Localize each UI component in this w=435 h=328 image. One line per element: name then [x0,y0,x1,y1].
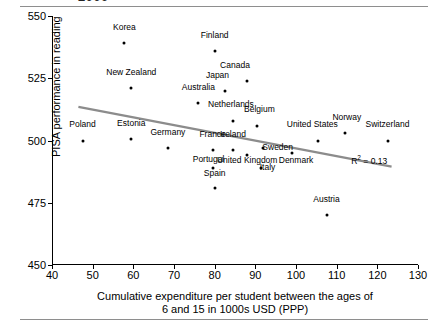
x-tick-label: 100 [287,269,305,281]
data-point-marker[interactable] [197,102,200,105]
y-tick-label: 475 [28,197,46,209]
figure-title-text: 2009 [78,0,109,4]
data-point-marker[interactable] [246,79,249,82]
x-axis-title-line1: Cumulative expenditure per student betwe… [52,290,418,303]
x-tick-label: 70 [168,269,180,281]
data-point-marker[interactable] [386,139,389,142]
data-point-label: Sweden [262,142,293,152]
data-point-marker[interactable] [290,151,293,154]
x-tick-label: 50 [87,269,99,281]
x-tick-label: 130 [409,269,427,281]
data-point-label: Germany [150,127,185,137]
data-point-marker[interactable] [130,138,133,141]
data-point-marker[interactable] [166,146,169,149]
data-point-marker[interactable] [213,49,216,52]
data-point-marker[interactable] [343,132,346,135]
data-point-label: Belgium [244,104,275,114]
data-point-label: United States [287,119,338,129]
data-point-marker[interactable] [256,124,259,127]
data-point-label: Portugal [193,154,225,164]
data-point-label: Estonia [117,118,145,128]
x-axis-title: Cumulative expenditure per student betwe… [52,290,418,316]
trendline-svg [52,16,418,265]
data-point-label: New Zealand [106,67,156,77]
figure-title-clipped: 2009 [0,0,435,5]
y-axis-title: PISA performance in reading [50,16,62,157]
data-point-marker[interactable] [231,119,234,122]
data-point-label: Switzerland [366,119,410,129]
x-tick-label: 110 [328,269,346,281]
r-squared-annotation: R2 = 0.13 [351,154,387,166]
data-point-label: Korea [113,22,136,32]
x-axis-title-line2: 6 and 15 in 1000s USD (PPP) [52,303,418,316]
data-point-marker[interactable] [231,149,234,152]
plot-area: 450475500525550 405060708090100110120130… [52,16,418,265]
data-point-label: Australia [182,82,215,92]
data-point-marker[interactable] [317,139,320,142]
data-point-marker[interactable] [130,87,133,90]
chart-figure: 2009 450475500525550 4050607080901001101… [0,0,435,328]
top-divider-rule [20,6,428,7]
r2-value: = 0.13 [361,156,387,166]
y-tick-label: 450 [28,259,46,271]
data-point-label: Japan [206,70,229,80]
data-point-marker[interactable] [81,139,84,142]
data-point-label: Canada [220,60,250,70]
x-tick-label: 90 [249,269,261,281]
data-point-marker[interactable] [325,214,328,217]
data-point-label: Italy [260,162,276,172]
data-point-label: Austria [313,194,339,204]
x-tick-label: 60 [127,269,139,281]
data-point-marker[interactable] [123,42,126,45]
data-point-label: Finland [201,30,229,40]
x-tick-label: 80 [209,269,221,281]
data-point-marker[interactable] [211,149,214,152]
data-point-label: Poland [69,119,95,129]
x-tick-label: 120 [368,269,386,281]
y-tick-label: 525 [28,72,46,84]
bottom-divider-rule [20,319,428,320]
y-tick-label: 550 [28,10,46,22]
data-point-label: Denmark [279,155,313,165]
y-tick-label: 500 [28,135,46,147]
data-point-marker[interactable] [213,186,216,189]
data-point-marker[interactable] [223,89,226,92]
data-point-label: Spain [204,168,226,178]
data-point-label: Ireland [220,129,246,139]
x-tick-label: 40 [46,269,58,281]
